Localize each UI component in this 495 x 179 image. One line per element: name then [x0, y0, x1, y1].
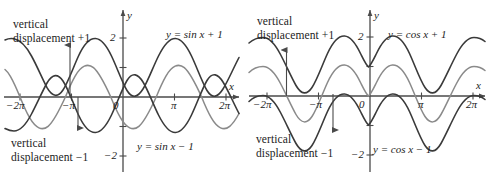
cosine-displacement-up-note-line1: vertical — [257, 15, 334, 29]
cosine-y-axis-label: y — [374, 9, 379, 22]
cosine-plus-one-curve — [249, 36, 485, 93]
cosine-upper-equation-label: y = cos x + 1 — [388, 28, 447, 41]
sine-panel: vertical displacement +1 vertical displa… — [0, 0, 248, 179]
sine-ytick-two: 2 — [110, 31, 116, 44]
trig-vertical-displacement-figure: vertical displacement +1 vertical displa… — [0, 0, 495, 179]
sine-displacement-up-note-line1: vertical — [13, 18, 90, 32]
cosine-displacement-down-note-line2: displacement −1 — [256, 147, 333, 161]
sine-xtick-2pi: 2π — [219, 99, 230, 112]
sine-displacement-up-note: vertical displacement +1 — [13, 18, 90, 45]
cosine-xtick-zero: 0 — [359, 98, 365, 111]
sine-x-axis-label: x — [229, 80, 234, 93]
cosine-xtick-2pi: 2π — [466, 98, 477, 111]
cosine-displacement-down-note-line1: vertical — [256, 133, 333, 147]
cosine-xtick-minus-2pi: −2π — [253, 98, 271, 111]
sine-displacement-up-note-line2: displacement +1 — [13, 32, 90, 46]
sine-xtick-pi: π — [171, 99, 177, 112]
cosine-x-axis-label: x — [476, 79, 481, 92]
sine-ytick-minus-two: −2 — [104, 149, 117, 162]
cosine-panel: vertical displacement +1 vertical displa… — [247, 0, 495, 179]
sine-displacement-down-note-line1: vertical — [11, 137, 88, 151]
sine-y-axis-label: y — [127, 9, 132, 22]
sine-displacement-down-note: vertical displacement −1 — [11, 137, 88, 164]
cosine-xtick-minus-pi: −π — [309, 98, 322, 111]
cosine-lower-equation-label: y = cos x − 1 — [373, 143, 432, 156]
sine-xtick-minus-2pi: −2π — [6, 99, 24, 112]
cosine-displacement-down-note: vertical displacement −1 — [256, 133, 333, 160]
cosine-xtick-pi: π — [418, 98, 424, 111]
cosine-displacement-up-note: vertical displacement +1 — [257, 15, 334, 42]
cosine-ytick-minus-two: −2 — [351, 148, 364, 161]
sine-displacement-down-note-line2: displacement −1 — [11, 151, 88, 165]
sine-base-curve-left-tail — [5, 70, 20, 98]
cosine-displacement-up-note-line2: displacement +1 — [257, 29, 334, 43]
sine-xtick-zero: 0 — [113, 99, 119, 112]
cosine-ytick-two: 2 — [358, 30, 364, 43]
sine-lower-equation-label: y = sin x − 1 — [137, 140, 194, 153]
sine-upper-equation-label: y = sin x + 1 — [166, 28, 223, 41]
sine-xtick-minus-pi: −π — [62, 99, 75, 112]
cosine-base-curve — [249, 65, 485, 122]
